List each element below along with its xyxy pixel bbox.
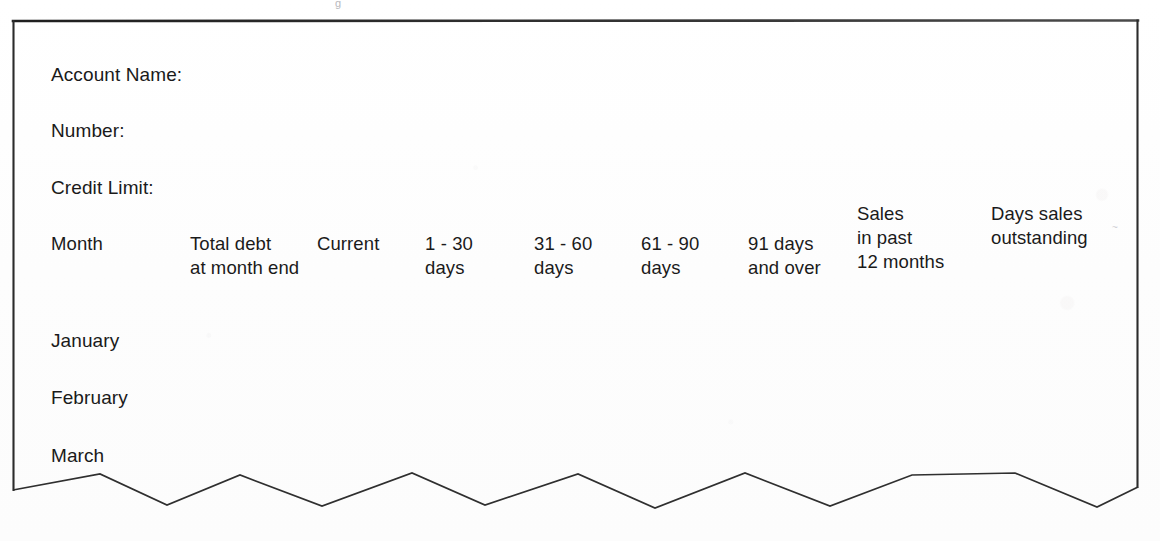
column-header-days-91-and-over-line2: and over	[748, 257, 821, 278]
column-header-days-61-90-line1: 61 - 90	[641, 233, 699, 254]
column-header-total-debt-line2: at month end	[190, 257, 299, 278]
table-row-february: February	[51, 385, 128, 410]
column-header-days-31-60-line2: days	[534, 257, 573, 278]
column-header-days-1-30: 1 - 30days	[425, 232, 473, 280]
column-header-current: Current	[317, 232, 379, 256]
column-header-days-91-and-over-line1: 91 days	[748, 233, 814, 254]
column-header-dso-line2: outstanding	[991, 227, 1088, 248]
scanned-form-page: g ~ Account Name: Number: Credit Limit: …	[0, 0, 1160, 541]
column-header-days-1-30-line1: 1 - 30	[425, 233, 473, 254]
column-header-days-91-and-over: 91 daysand over	[748, 232, 821, 280]
column-header-sales-past-12-months: Salesin past12 months	[857, 202, 944, 274]
column-header-total-debt: Total debtat month end	[190, 232, 299, 280]
column-header-days-61-90-line2: days	[641, 257, 680, 278]
column-header-sales-line1: Sales	[857, 203, 904, 224]
column-header-dso-line1: Days sales	[991, 203, 1082, 224]
column-header-month: Month	[51, 232, 103, 256]
column-header-sales-line2: in past	[857, 227, 912, 248]
field-label-number: Number:	[51, 118, 125, 143]
column-header-total-debt-line1: Total debt	[190, 233, 271, 254]
column-header-days-1-30-line2: days	[425, 257, 464, 278]
column-header-days-sales-outstanding: Days salesoutstanding	[991, 202, 1088, 250]
table-row-march: March	[51, 443, 104, 468]
column-header-days-61-90: 61 - 90days	[641, 232, 699, 280]
field-label-account-name: Account Name:	[51, 62, 182, 87]
field-label-credit-limit: Credit Limit:	[51, 175, 154, 200]
column-header-days-31-60-line1: 31 - 60	[534, 233, 592, 254]
form-content: Account Name: Number: Credit Limit: Mont…	[0, 0, 1160, 541]
table-row-january: January	[51, 328, 119, 353]
column-header-days-31-60: 31 - 60days	[534, 232, 592, 280]
column-header-sales-line3: 12 months	[857, 251, 944, 272]
